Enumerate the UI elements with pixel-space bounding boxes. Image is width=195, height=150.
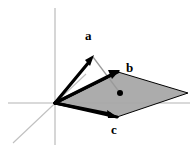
vector-label-a: a: [85, 29, 92, 42]
vector-label-c: c: [111, 123, 117, 136]
projection-point: [117, 90, 123, 96]
axes-group: [8, 8, 190, 145]
vector-label-b: b: [126, 61, 133, 74]
vector-projection-figure: a b c: [0, 0, 195, 150]
figure-canvas: [0, 0, 195, 150]
